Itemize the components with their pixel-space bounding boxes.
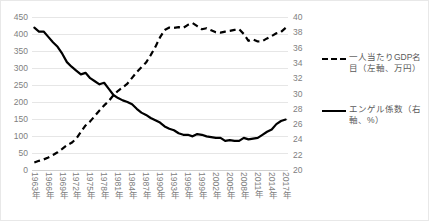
x-axis-tick: 1993年 <box>170 172 179 200</box>
solid-line-icon <box>322 106 346 116</box>
series-lines <box>32 17 288 170</box>
y-axis-left-tick: 250 <box>14 81 28 90</box>
y-axis-right: 4038363432302826242220 <box>293 0 323 221</box>
x-axis-tick: 2017年 <box>281 172 290 200</box>
y-axis-left-tick: 100 <box>14 132 28 141</box>
y-axis-left-tick: 0 <box>23 166 28 175</box>
y-axis-left-tick: 200 <box>14 98 28 107</box>
x-axis-tick: 1981年 <box>114 172 123 200</box>
dashed-line-icon <box>322 54 346 64</box>
y-axis-left-tick: 50 <box>19 149 28 158</box>
series-line-engel <box>34 28 285 141</box>
y-axis-right-tick: 34 <box>293 59 302 68</box>
x-axis-tick: 1966年 <box>44 172 53 200</box>
y-axis-left-tick: 400 <box>14 30 28 39</box>
x-axis-tick: 2011年 <box>253 172 262 199</box>
y-axis-left: 450400350300250200150100500 <box>0 0 28 221</box>
x-axis-tick: 1996年 <box>184 172 193 200</box>
x-axis-tick: 1963年 <box>30 172 39 200</box>
y-axis-right-tick: 30 <box>293 90 302 99</box>
y-axis-right-tick: 32 <box>293 74 302 83</box>
x-axis-line <box>32 170 288 171</box>
x-axis: 1963年1966年1969年1972年1975年1978年1981年1984年… <box>32 172 288 221</box>
x-axis-tick: 1984年 <box>128 172 137 200</box>
plot-area <box>32 17 288 170</box>
x-axis-tick: 2014年 <box>267 172 276 200</box>
x-axis-tick: 1972年 <box>72 172 81 200</box>
engel-gdp-chart: 450400350300250200150100500 403836343230… <box>0 0 429 221</box>
y-axis-left-tick: 150 <box>14 115 28 124</box>
x-axis-tick: 1987年 <box>142 172 151 200</box>
x-axis-tick: 1978年 <box>100 172 109 200</box>
legend-item-gdp[interactable]: 一人当たりGDP名目（左軸、万円） <box>322 52 427 74</box>
y-axis-right-tick: 40 <box>293 13 302 22</box>
x-axis-tick: 2005年 <box>226 172 235 200</box>
y-axis-right-tick: 36 <box>293 44 302 53</box>
y-axis-right-tick: 28 <box>293 105 302 114</box>
y-axis-right-tick: 26 <box>293 120 302 129</box>
y-axis-left-tick: 350 <box>14 47 28 56</box>
legend-item-engel[interactable]: エンゲル係数（右軸、%） <box>322 104 427 126</box>
legend-label-gdp: 一人当たりGDP名目（左軸、万円） <box>349 52 427 74</box>
x-axis-tick: 1999年 <box>198 172 207 200</box>
x-axis-tick: 1990年 <box>156 172 165 200</box>
y-axis-left-tick: 450 <box>14 13 28 22</box>
legend-label-engel: エンゲル係数（右軸、%） <box>349 104 427 126</box>
x-axis-tick: 2002年 <box>212 172 221 200</box>
series-line-gdp <box>34 23 285 162</box>
x-axis-tick: 1969年 <box>58 172 67 200</box>
y-axis-right-tick: 24 <box>293 135 302 144</box>
x-axis-tick: 1975年 <box>86 172 95 200</box>
y-axis-right-tick: 20 <box>293 166 302 175</box>
chart-legend: 一人当たりGDP名目（左軸、万円） エンゲル係数（右軸、%） <box>322 52 427 156</box>
y-axis-left-tick: 300 <box>14 64 28 73</box>
x-axis-tick: 2008年 <box>240 172 249 200</box>
y-axis-right-tick: 22 <box>293 151 302 160</box>
y-axis-right-tick: 38 <box>293 28 302 37</box>
